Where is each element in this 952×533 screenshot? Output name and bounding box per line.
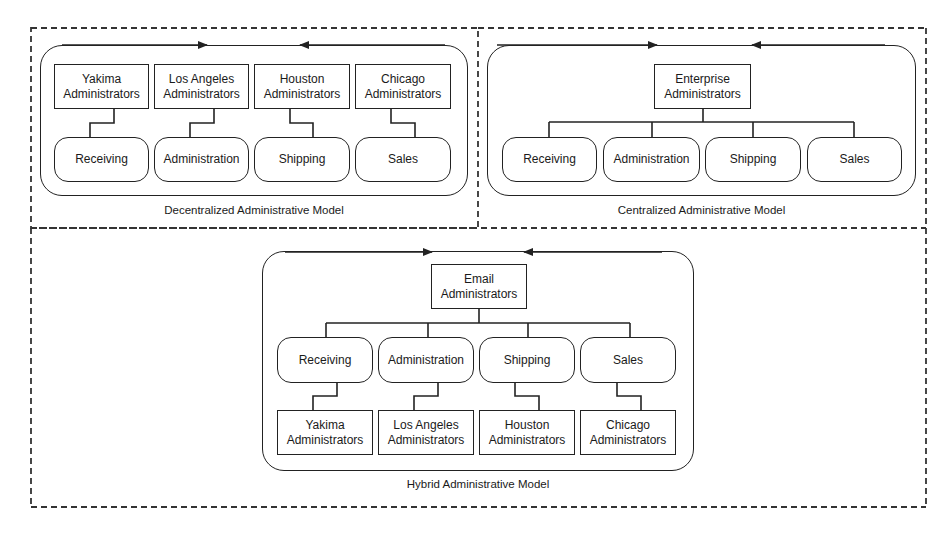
dept-box-receiving: Receiving [277,337,373,383]
hybrid-caption: Hybrid Administrative Model [262,478,694,490]
admin-box-houston: Houston Administrators [254,64,350,109]
dept-box-sales: Sales [807,137,902,182]
centralized-caption: Centralized Administrative Model [487,204,916,216]
admin-box-yakima: Yakima Administrators [277,410,373,455]
dept-box-receiving: Receiving [54,137,149,182]
admin-box-yakima: Yakima Administrators [54,64,149,109]
dept-box-sales: Sales [355,137,451,182]
dept-box-administration: Administration [154,137,249,182]
root-box-enterprise-admins: Enterprise Administrators [654,64,751,109]
admin-box-chicago: Chicago Administrators [580,410,676,455]
dept-box-administration: Administration [603,137,700,182]
decentralized-caption: Decentralized Administrative Model [40,204,468,216]
dept-box-shipping: Shipping [254,137,350,182]
admin-box-los-angeles: Los Angeles Administrators [378,410,474,455]
root-box-email-admins: Email Administrators [431,264,527,309]
admin-box-houston: Houston Administrators [479,410,575,455]
admin-box-chicago: Chicago Administrators [355,64,451,109]
dept-box-sales: Sales [580,337,676,383]
dept-box-shipping: Shipping [705,137,801,182]
dept-box-administration: Administration [378,337,474,383]
admin-box-los-angeles: Los Angeles Administrators [154,64,249,109]
dept-box-shipping: Shipping [479,337,575,383]
dept-box-receiving: Receiving [502,137,597,182]
